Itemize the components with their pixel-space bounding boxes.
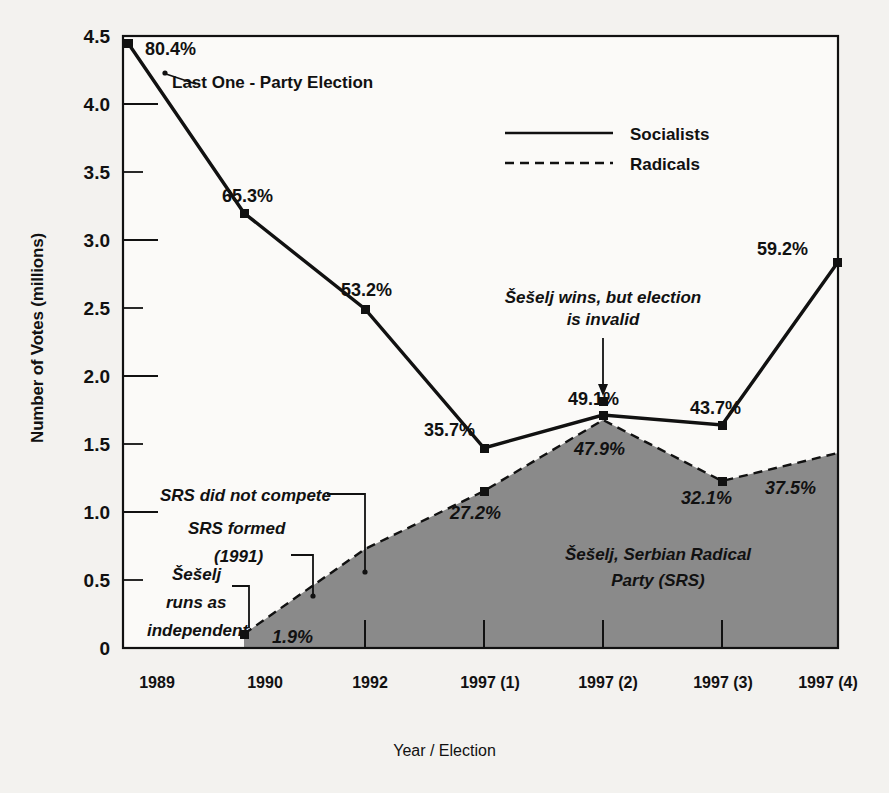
annotation-seselj-wins-line1: Šešelj wins, but election — [505, 288, 702, 307]
annotation-last-one-text: Last One - Party Election — [172, 73, 373, 92]
y-tick-4-0: 4.0 — [84, 94, 110, 115]
marker-radicals-1997-1 — [480, 487, 489, 496]
label-socialists-1992: 53.2% — [341, 280, 392, 300]
y-tick-4-5: 4.5 — [84, 26, 111, 47]
x-tick-1990: 1990 — [247, 674, 283, 691]
y-tick-1-5: 1.5 — [84, 434, 111, 455]
x-tick-1997-1: 1997 (1) — [460, 674, 520, 691]
annotation-srs-formed-line2: (1991) — [214, 547, 263, 566]
x-tick-1997-3: 1997 (3) — [693, 674, 753, 691]
label-socialists-1990: 65.3% — [222, 186, 273, 206]
label-radicals-1990: 1.9% — [272, 627, 313, 647]
y-tick-2-5: 2.5 — [84, 298, 111, 319]
y-tick-3-5: 3.5 — [84, 162, 111, 183]
annotation-seselj-wins-line2: is invalid — [567, 310, 640, 329]
marker-socialists-1997-2 — [599, 411, 608, 420]
label-socialists-1989: 80.4% — [145, 39, 196, 59]
annotation-srs-formed-line1: SRS formed — [188, 519, 286, 538]
x-tick-1992: 1992 — [352, 674, 388, 691]
y-tick-1-0: 1.0 — [84, 502, 110, 523]
annotation-last-one-party-election: Last One - Party Election — [162, 70, 373, 92]
leader-dot-last-one — [162, 70, 167, 75]
y-tick-3-0: 3.0 — [84, 230, 110, 251]
label-radicals-1997-2: 47.9% — [573, 439, 625, 459]
label-socialists-1997-4: 59.2% — [757, 239, 808, 259]
annotation-srs-not-compete-text: SRS did not compete — [160, 486, 331, 505]
marker-radicals-1997-3 — [718, 477, 727, 486]
chart-page: Number of Votes (millions) Year / Electi… — [0, 0, 889, 793]
marker-socialists-1989 — [124, 39, 133, 48]
legend-label-socialists: Socialists — [630, 125, 709, 144]
x-tick-1989: 1989 — [139, 674, 175, 691]
chart-canvas: 4.5 4.0 3.5 3.0 2.5 2.0 1.5 1.0 0.5 0 19… — [0, 0, 889, 793]
x-tick-1997-4: 1997 (4) — [798, 674, 858, 691]
annotation-seselj-ind-line1: Šešelj — [172, 565, 222, 584]
area-label-line2: Party (SRS) — [611, 571, 705, 590]
marker-socialists-1992 — [361, 305, 370, 314]
y-tick-0-5: 0.5 — [84, 570, 111, 591]
y-axis-tick-labels: 4.5 4.0 3.5 3.0 2.5 2.0 1.5 1.0 0.5 0 — [84, 26, 111, 659]
marker-socialists-1997-1 — [480, 444, 489, 453]
y-tick-2-0: 2.0 — [84, 366, 110, 387]
label-socialists-1997-2: 49.1% — [568, 389, 619, 409]
marker-socialists-1997-4 — [833, 258, 842, 267]
legend-label-radicals: Radicals — [630, 155, 700, 174]
annotation-seselj-ind-line2: runs as — [166, 593, 226, 612]
label-socialists-1997-1: 35.7% — [424, 420, 475, 440]
y-tick-0: 0 — [99, 638, 110, 659]
leader-dot-srs-formed — [310, 593, 315, 598]
x-axis-tick-labels: 1989 1990 1992 1997 (1) 1997 (2) 1997 (3… — [139, 674, 858, 691]
marker-socialists-1990 — [240, 209, 249, 218]
annotation-seselj-ind-line3: independent — [147, 621, 249, 640]
label-radicals-1997-3: 32.1% — [681, 488, 732, 508]
area-label-line1: Šešelj, Serbian Radical — [565, 545, 752, 564]
label-socialists-1997-3: 43.7% — [690, 398, 741, 418]
label-radicals-1997-1: 27.2% — [449, 503, 501, 523]
x-tick-1997-2: 1997 (2) — [578, 674, 638, 691]
marker-socialists-1997-3 — [718, 421, 727, 430]
label-radicals-1997-4: 37.5% — [765, 478, 816, 498]
leader-dot-srs-not-compete — [362, 569, 367, 574]
